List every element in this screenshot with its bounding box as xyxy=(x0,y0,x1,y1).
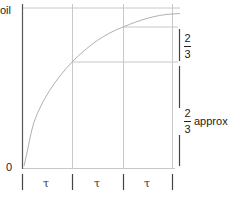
tau-interval-3: τ xyxy=(144,178,150,189)
fraction-bar xyxy=(184,121,191,122)
tau-interval-2: τ xyxy=(94,178,100,189)
exponential-curve xyxy=(24,14,180,167)
tau-interval-1: τ xyxy=(43,178,49,189)
origin-label: 0 xyxy=(6,162,12,173)
upper-fraction: 2 3 xyxy=(184,33,191,60)
diagram-graphic xyxy=(0,0,228,198)
lower-fraction-numerator: 2 xyxy=(184,108,190,119)
fraction-bar xyxy=(184,46,191,47)
upper-fraction-denominator: 3 xyxy=(184,49,190,60)
diagram-canvas: oil 0 2 3 2 3 approx. τ τ τ xyxy=(0,0,228,198)
approx-label: approx. xyxy=(194,116,228,127)
lower-fraction: 2 3 xyxy=(184,108,191,135)
lower-fraction-denominator: 3 xyxy=(184,124,190,135)
upper-fraction-numerator: 2 xyxy=(184,33,190,44)
y-axis-label: oil xyxy=(0,5,11,16)
